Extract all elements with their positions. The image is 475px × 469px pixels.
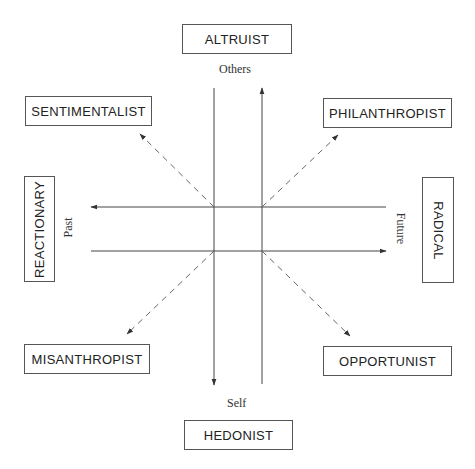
hedonist-box: HEDONIST	[184, 420, 293, 450]
radical-label: RADICAL	[431, 201, 446, 259]
altruist-box: ALTRUIST	[182, 24, 292, 54]
misanthropist-box: MISANTHROPIST	[24, 344, 150, 374]
reactionary-box: REACTIONARY	[24, 176, 55, 282]
opportunist-box: OPPORTUNIST	[323, 346, 452, 376]
opportunist-arrow	[262, 251, 350, 336]
radical-box: RADICAL	[422, 177, 454, 283]
misanthropist-label: MISANTHROPIST	[32, 352, 143, 367]
philanthropist-box: PHILANTHROPIST	[323, 98, 452, 128]
sentimentalist-label: SENTIMENTALIST	[31, 104, 145, 119]
altruist-label: ALTRUIST	[205, 32, 269, 47]
philanthropist-label: PHILANTHROPIST	[329, 106, 446, 121]
sentimentalist-arrow	[140, 134, 214, 207]
reactionary-label: REACTIONARY	[32, 181, 47, 278]
self-label: Self	[227, 396, 246, 411]
hedonist-label: HEDONIST	[204, 428, 274, 443]
past-label: Past	[61, 217, 76, 237]
opportunist-label: OPPORTUNIST	[339, 354, 436, 369]
misanthropist-arrow	[127, 251, 214, 334]
sentimentalist-box: SENTIMENTALIST	[25, 96, 152, 126]
philanthropist-arrow	[262, 135, 338, 207]
others-label: Others	[219, 62, 251, 77]
future-label: Future	[393, 213, 408, 244]
